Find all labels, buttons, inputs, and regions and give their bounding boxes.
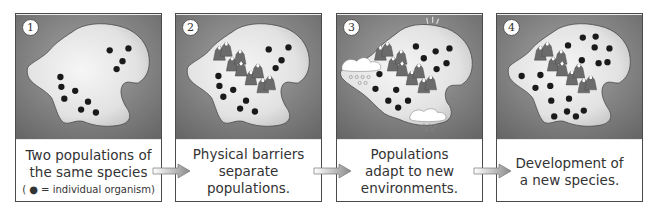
step-panel-4: 4 Development of a new species. — [496, 13, 643, 202]
arrow-right-icon — [313, 163, 353, 179]
step-number-badge: 2 — [182, 19, 199, 36]
step-caption: Two populations of the same species ( ● … — [16, 142, 161, 201]
step-number-badge: 3 — [343, 19, 360, 36]
caption-line: the same species — [30, 164, 148, 181]
caption-line: Physical barriers — [193, 146, 305, 163]
caption-line: a new species. — [520, 172, 619, 189]
step-number-badge: 4 — [503, 19, 520, 36]
step-caption: Development of a new species. — [497, 142, 642, 201]
caption-line: separate — [219, 163, 279, 180]
caption-line: Populations — [371, 146, 449, 163]
step-panel-3: 3 Populations adapt to new environments. — [336, 13, 483, 202]
step-caption: Physical barriers separate populations. — [176, 142, 321, 201]
caption-line: environments. — [361, 180, 458, 197]
caption-line: Development of — [515, 155, 623, 172]
caption-line: populations. — [207, 180, 290, 197]
step-panel-2: 2 Physical barriers separate populations… — [175, 13, 322, 202]
island-scene-4 — [497, 14, 642, 140]
island-scene-1 — [16, 14, 161, 140]
step-number-badge: 1 — [22, 19, 39, 36]
caption-line: Two populations of — [26, 147, 152, 164]
arrow-right-icon — [473, 163, 513, 179]
caption-line: adapt to new — [365, 163, 454, 180]
step-panel-1: 1 Two populations of the same species ( … — [15, 13, 162, 202]
island-scene-2 — [176, 14, 321, 140]
step-caption: Populations adapt to new environments. — [337, 142, 482, 201]
island-scene-3 — [337, 14, 482, 140]
arrow-right-icon — [152, 163, 192, 179]
organism-legend: ( ● = individual organism) — [22, 183, 155, 196]
